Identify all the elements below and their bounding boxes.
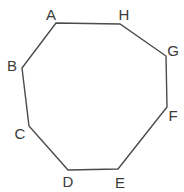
vertex-labels: AHGFEDCB bbox=[7, 6, 179, 191]
vertex-label-d: D bbox=[63, 173, 74, 190]
octagon-diagram: AHGFEDCB bbox=[0, 0, 184, 192]
vertex-label-f: F bbox=[168, 107, 177, 124]
octagon-shape bbox=[22, 23, 167, 170]
vertex-label-e: E bbox=[115, 174, 125, 191]
vertex-label-a: A bbox=[46, 6, 56, 23]
vertex-label-b: B bbox=[7, 57, 17, 74]
vertex-label-g: G bbox=[167, 42, 179, 59]
vertex-label-h: H bbox=[119, 6, 130, 23]
octagon-svg: AHGFEDCB bbox=[0, 0, 184, 192]
vertex-label-c: C bbox=[15, 125, 26, 142]
